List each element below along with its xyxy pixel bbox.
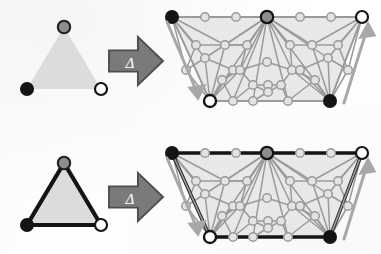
- right-up-arrow-head: [361, 24, 374, 37]
- vertex-bottom-left-black: [21, 219, 33, 231]
- delta-label: Δ: [125, 55, 135, 71]
- vertex-apex-gray: [58, 157, 70, 169]
- right-up-arrow-head: [361, 160, 374, 173]
- row-top: Δ: [21, 11, 374, 107]
- vertex-bottom-right-white: [95, 219, 107, 231]
- mesh-corner-top-mid-gray: [261, 147, 273, 159]
- mesh-corner-bottom-right-black: [324, 231, 336, 243]
- triangle-face: [27, 27, 101, 89]
- mesh-corner-top-mid-gray: [261, 11, 273, 23]
- vertex-bottom-left-black: [21, 83, 33, 95]
- left-down-arrow-head: [190, 86, 204, 98]
- mesh-corner-bottom-left-white: [204, 231, 216, 243]
- delta-arrow-top: Δ: [109, 37, 163, 85]
- figure-canvas: Δ: [0, 0, 381, 254]
- vertex-apex-gray: [58, 21, 70, 33]
- left-down-arrow-head: [190, 222, 204, 234]
- triangle-unbordered: [21, 21, 107, 95]
- mesh-corner-top-right-white: [356, 11, 368, 23]
- delta-label: Δ: [125, 191, 135, 207]
- triangle-face-outlined: [27, 163, 101, 225]
- mesh-corner-bottom-left-white: [204, 95, 216, 107]
- arrow-shape: [109, 173, 163, 221]
- mesh-light-boundary: [166, 11, 374, 107]
- mesh-dark-boundary: [166, 147, 374, 243]
- mesh-corner-top-right-white: [356, 147, 368, 159]
- mesh-corner-bottom-right-black: [324, 95, 336, 107]
- arrow-shape: [109, 37, 163, 85]
- triangle-bordered: [21, 157, 107, 231]
- vertex-bottom-right-white: [95, 83, 107, 95]
- row-bottom: Δ: [21, 147, 374, 243]
- delta-arrow-bottom: Δ: [109, 173, 163, 221]
